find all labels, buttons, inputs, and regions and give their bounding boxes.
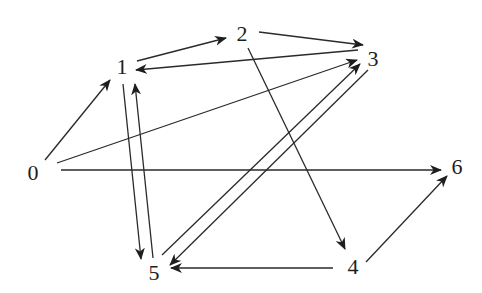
node-6: 6 — [452, 154, 463, 179]
edge-1-to-2 — [137, 38, 226, 61]
edge-0-to-3 — [57, 60, 357, 163]
edge-2-to-4 — [248, 48, 345, 249]
node-4: 4 — [348, 254, 359, 279]
node-3: 3 — [368, 46, 379, 71]
edge-2-to-3 — [259, 32, 363, 45]
edge-4-to-6 — [366, 176, 447, 262]
node-0: 0 — [28, 160, 39, 185]
directed-graph: 0123456 — [0, 0, 482, 293]
edges-layer — [45, 32, 447, 268]
node-5: 5 — [149, 260, 160, 285]
node-2: 2 — [237, 21, 248, 46]
node-1: 1 — [117, 54, 128, 79]
graph-canvas: 0123456 — [0, 0, 482, 293]
